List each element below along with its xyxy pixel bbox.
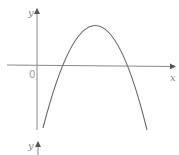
graph-canvas: y 0 x y [0,0,179,155]
second-y-axis-label: y [27,140,34,151]
origin-label: 0 [29,69,35,80]
y-axis-label: y [27,7,34,18]
x-axis [7,65,175,67]
parabola-curve [43,25,147,130]
x-axis-label: x [170,72,176,83]
